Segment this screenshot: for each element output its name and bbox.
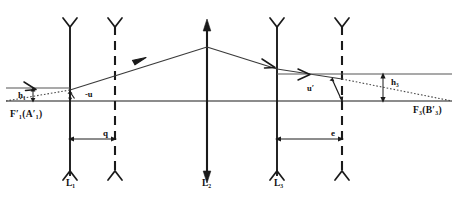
- label-focal-point-f3: F₃(B′₃): [413, 106, 442, 116]
- ray-l2-to-l3: [207, 47, 277, 69]
- label-h1: h₁: [18, 91, 26, 100]
- label-focal-point-f1: F′₁(A′₁): [10, 110, 42, 120]
- label-distance-e: e: [331, 129, 335, 138]
- label-lens-2: L₂: [202, 179, 211, 189]
- dimension-h3: [380, 73, 385, 103]
- object-ray-dotted: [6, 90, 70, 101]
- ray-out-horizontal: [277, 69, 452, 80]
- plane-1-dashed: [108, 18, 122, 180]
- optics-diagram-canvas: [0, 0, 459, 206]
- label-angle-u-out: u′: [307, 84, 314, 93]
- angle-marker-u-in: [68, 91, 75, 102]
- label-lens-3: L₃: [274, 179, 283, 189]
- label-distance-q: q: [103, 129, 108, 138]
- label-angle-u-in: -u: [85, 90, 93, 99]
- label-lens-1: L₁: [66, 179, 75, 189]
- label-h3: h₃: [391, 78, 399, 87]
- incoming-marginal-ray: [6, 82, 70, 91]
- optics-ray-diagram: h₁ h₃ -u u′ q e F′₁(A′₁) F₃(B′₃) L₁ L₂ L…: [0, 0, 459, 206]
- ray-l1-to-l2: [70, 47, 207, 90]
- lens-3: [270, 18, 284, 180]
- dimension-q: [68, 137, 117, 142]
